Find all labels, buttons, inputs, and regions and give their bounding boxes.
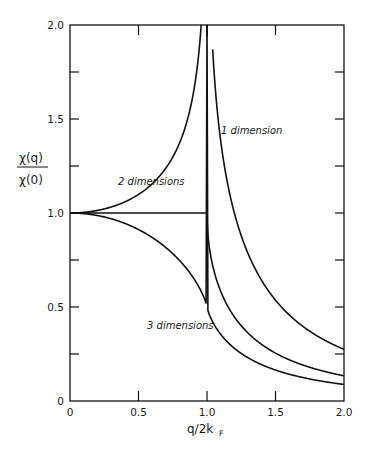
x-axis-title-subscript: F bbox=[219, 429, 223, 438]
curve-label-2d: 2 dimensions bbox=[118, 176, 185, 187]
axis-tick-labels: 00.51.01.52.000.51.01.52.0 bbox=[47, 19, 352, 418]
y-axis-title: χ(q) χ(0) bbox=[17, 151, 48, 187]
x-tick-label: 0 bbox=[67, 406, 74, 418]
x-tick-label: 1.5 bbox=[267, 406, 284, 418]
y-tick-label: 0 bbox=[57, 395, 64, 407]
curve-label-3d: 3 dimensions bbox=[147, 320, 214, 331]
chart: 00.51.01.52.000.51.01.52.0 1 dimension 2… bbox=[0, 0, 366, 459]
x-axis-title: q/2k F bbox=[187, 422, 223, 438]
y-tick-label: 1.0 bbox=[47, 207, 64, 219]
y-tick-label: 2.0 bbox=[47, 19, 64, 31]
x-axis-title-main: q/2k bbox=[187, 422, 213, 436]
x-tick-label: 1.0 bbox=[199, 406, 216, 418]
y-axis-numerator: χ(q) bbox=[19, 151, 43, 165]
x-tick-label: 2.0 bbox=[336, 406, 353, 418]
y-axis-denominator: χ(0) bbox=[19, 173, 43, 187]
curve-label-1d: 1 dimension bbox=[221, 125, 282, 136]
x-tick-label: 0.5 bbox=[130, 406, 147, 418]
curve-1-dimension-right bbox=[213, 49, 344, 349]
y-tick-label: 1.5 bbox=[47, 113, 64, 125]
y-tick-label: 0.5 bbox=[47, 301, 64, 313]
